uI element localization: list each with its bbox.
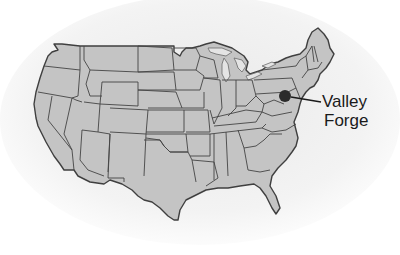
valley-forge-marker — [279, 90, 291, 102]
label-line-1: Valley — [322, 92, 368, 111]
valley-forge-label: Valley Forge — [322, 92, 368, 130]
us-map: Valley Forge — [0, 0, 400, 255]
label-line-2: Forge — [322, 111, 368, 130]
